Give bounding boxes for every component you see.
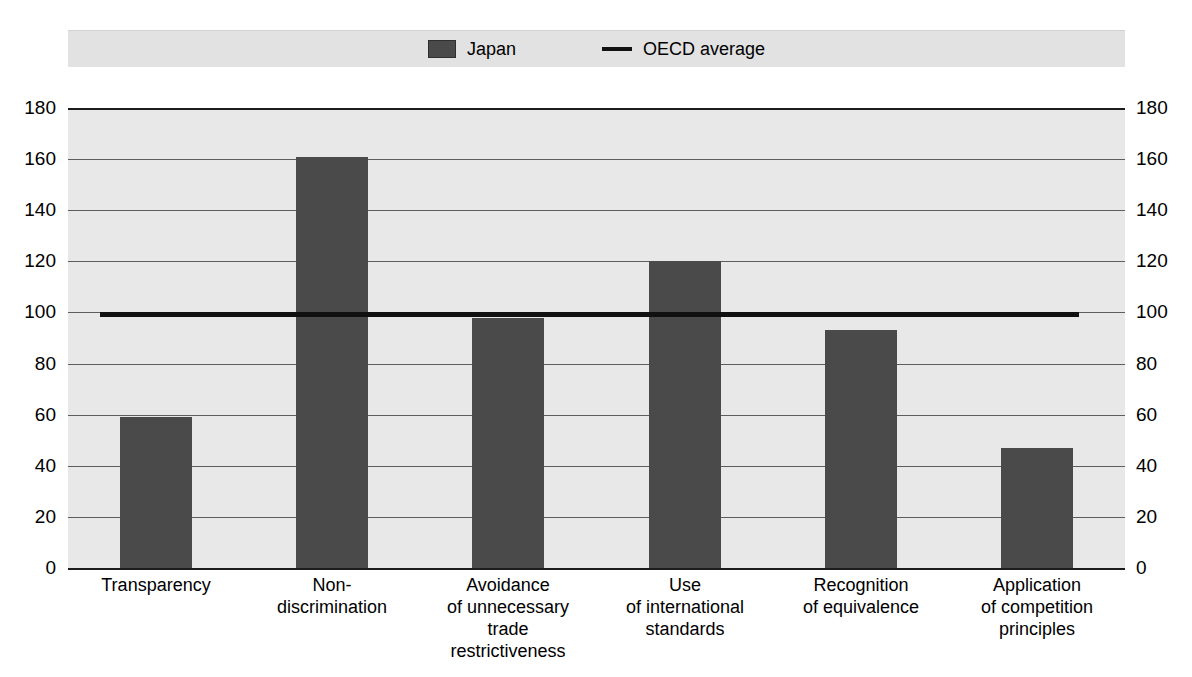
y-tick-left-100: 100 [2,302,56,321]
legend-item-japan[interactable]: Japan [428,40,516,58]
y-tick-left-0: 0 [2,558,56,577]
legend-label-oecd-average: OECD average [643,40,765,58]
category-label-non-discrimination: Non- discrimination [244,574,420,618]
category-line: of international [597,596,773,618]
y-tick-left-60: 60 [2,405,56,424]
y-tick-right-60: 60 [1136,405,1190,424]
category-line: standards [597,618,773,640]
y-tick-left-40: 40 [2,456,56,475]
bar-avoidance-of-unnecessary-trade-restrictiveness[interactable] [472,318,544,568]
y-tick-left-160: 160 [2,149,56,168]
category-line: of unnecessary [420,596,596,618]
y-tick-left-120: 120 [2,251,56,270]
category-line: of competition [949,596,1125,618]
category-line: of equivalence [773,596,949,618]
category-line: discrimination [244,596,420,618]
y-tick-right-160: 160 [1136,149,1190,168]
category-line: principles [949,618,1125,640]
category-line: Application [949,574,1125,596]
chart-root: Japan OECD average 180 160 140 120 100 8… [0,0,1192,677]
bars-layer [68,108,1125,568]
legend-item-oecd-average[interactable]: OECD average [602,40,765,58]
category-label-application-of-competition-principles: Application of competition principles [949,574,1125,640]
plot-area [68,108,1125,568]
category-line: Recognition [773,574,949,596]
category-line: Non- [244,574,420,596]
category-label-recognition-of-equivalence: Recognition of equivalence [773,574,949,618]
y-tick-left-20: 20 [2,507,56,526]
y-tick-right-100: 100 [1136,302,1190,321]
y-tick-left-80: 80 [2,354,56,373]
y-tick-right-140: 140 [1136,200,1190,219]
legend-swatch-icon [428,40,456,58]
category-line: Transparency [68,574,244,596]
y-tick-right-20: 20 [1136,507,1190,526]
bar-recognition-of-equivalence[interactable] [825,330,897,568]
bar-use-of-international-standards[interactable] [649,261,721,568]
gridline-0 [68,568,1125,570]
y-tick-right-120: 120 [1136,251,1190,270]
category-label-transparency: Transparency [68,574,244,596]
category-labels: Transparency Non- discrimination Avoidan… [68,574,1125,674]
y-tick-right-180: 180 [1136,98,1190,117]
y-tick-right-80: 80 [1136,354,1190,373]
y-axis-left: 180 160 140 120 100 80 60 40 20 0 [2,0,60,677]
y-tick-right-0: 0 [1136,558,1190,577]
category-line: trade [420,618,596,640]
category-label-use-of-international-standards: Use of international standards [597,574,773,640]
category-label-avoidance-of-unnecessary-trade-restrictiveness: Avoidance of unnecessary trade restricti… [420,574,596,662]
oecd-average-line [100,312,1079,317]
legend-label-japan: Japan [467,40,516,58]
bar-application-of-competition-principles[interactable] [1001,448,1073,568]
category-line: restrictiveness [420,640,596,662]
chart-legend: Japan OECD average [68,30,1125,67]
y-axis-right: 180 160 140 120 100 80 60 40 20 0 [1136,0,1192,677]
y-tick-left-180: 180 [2,98,56,117]
category-line: Use [597,574,773,596]
y-tick-left-140: 140 [2,200,56,219]
legend-line-icon [602,47,632,51]
bar-non-discrimination[interactable] [296,157,368,568]
bar-transparency[interactable] [120,417,192,568]
category-line: Avoidance [420,574,596,596]
y-tick-right-40: 40 [1136,456,1190,475]
